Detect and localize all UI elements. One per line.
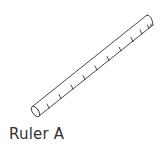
figure-label: Ruler A — [9, 125, 64, 143]
